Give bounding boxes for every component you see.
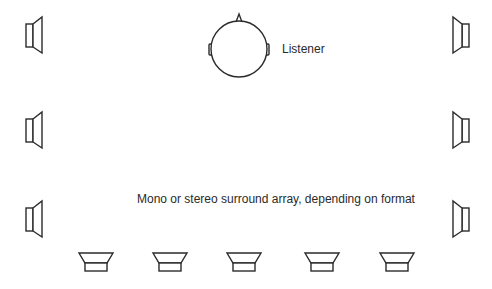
right-speaker-3-icon: [453, 201, 469, 237]
rear-speaker-1-icon: [79, 253, 113, 271]
left-speaker-3-icon: [26, 201, 42, 237]
surround-array-label: Mono or stereo surround array, depending…: [137, 192, 415, 206]
diagram-canvas: [0, 0, 492, 289]
left-speaker-1-icon: [26, 17, 42, 53]
rear-speaker-5-icon: [380, 253, 414, 271]
rear-speaker-4-icon: [305, 253, 339, 271]
right-speaker-2-icon: [453, 112, 469, 148]
rear-speaker-2-icon: [153, 253, 187, 271]
rear-speaker-3-icon: [227, 253, 261, 271]
speaker-layout-diagram: Listener Mono or stereo surround array, …: [0, 0, 492, 289]
listener-head-icon: [209, 14, 269, 77]
listener-label: Listener: [282, 42, 325, 56]
left-speaker-2-icon: [26, 112, 42, 148]
head-circle: [211, 21, 267, 77]
right-speaker-1-icon: [453, 17, 469, 53]
